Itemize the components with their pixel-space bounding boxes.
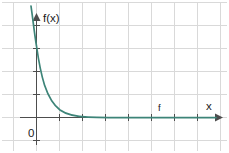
grid-lines: [2, 2, 227, 151]
y-axis: [33, 13, 41, 145]
y-axis-label: f(x): [43, 12, 60, 24]
curve-label: f: [158, 102, 161, 113]
graph-figure: f(x) x 0 f: [0, 0, 229, 153]
origin-label: 0: [28, 127, 34, 139]
x-axis-label: x: [206, 100, 212, 112]
